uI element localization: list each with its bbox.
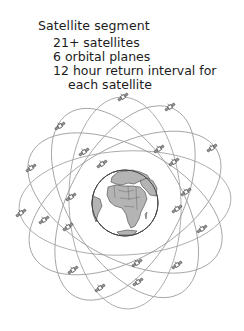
satellite-icon — [131, 276, 143, 287]
satellite-icon — [93, 282, 105, 293]
earth-globe-icon — [92, 170, 158, 236]
satellite-icon — [95, 158, 107, 169]
satellite-icon — [167, 156, 179, 167]
satellite-icon — [116, 91, 128, 102]
satellite-icon — [53, 120, 65, 131]
satellite-icon — [66, 264, 78, 275]
satellite-icon — [195, 223, 207, 234]
satellite-icon — [37, 214, 49, 225]
satellite-icon — [77, 146, 89, 157]
constellation-diagram — [0, 0, 244, 331]
satellite-icon — [24, 162, 36, 173]
